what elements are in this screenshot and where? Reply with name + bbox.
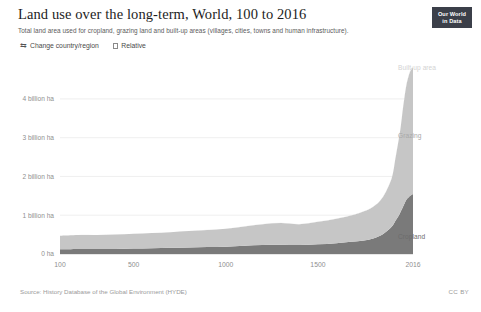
owid-logo-line-1: Our World (438, 11, 466, 18)
svg-text:2016: 2016 (405, 261, 420, 268)
series-label-builtup: Built-up area (398, 64, 436, 71)
svg-text:3 billion ha: 3 billion ha (22, 134, 54, 141)
svg-text:0 ha: 0 ha (41, 250, 54, 257)
owid-logo[interactable]: Our World in Data (432, 7, 472, 28)
owid-chart: Land use over the long-term, World, 100 … (0, 0, 481, 312)
owid-logo-line-2: in Data (442, 18, 461, 25)
area-series-group (60, 66, 413, 254)
y-axis-labels: 0 ha1 billion ha2 billion ha3 billion ha… (22, 95, 54, 257)
relative-toggle[interactable]: Relative (113, 42, 146, 49)
svg-text:4 billion ha: 4 billion ha (22, 95, 54, 102)
x-axis-labels: 100500100015002016 (54, 261, 420, 268)
series-label-grazing: Grazing (398, 132, 421, 139)
chart-footer: Source: History Database of the Global E… (0, 286, 481, 304)
area-grazing (60, 67, 413, 249)
area-built-up-area (60, 66, 413, 236)
page-title: Land use over the long-term, World, 100 … (18, 6, 418, 23)
license-text[interactable]: CC BY (449, 288, 469, 295)
swap-arrows-icon: ⇆ (20, 42, 27, 50)
relative-label: Relative (121, 42, 146, 49)
change-country-region-label: Change country/region (30, 42, 99, 49)
checkbox-icon[interactable] (113, 43, 119, 49)
source-text: Source: History Database of the Global E… (20, 288, 187, 295)
chart-header: Land use over the long-term, World, 100 … (18, 6, 418, 35)
svg-text:2 billion ha: 2 billion ha (22, 173, 54, 180)
svg-text:1 billion ha: 1 billion ha (22, 212, 54, 219)
svg-text:500: 500 (128, 261, 140, 268)
svg-text:100: 100 (54, 261, 66, 268)
svg-text:1000: 1000 (218, 261, 233, 268)
change-country-region-button[interactable]: ⇆ Change country/region (20, 42, 99, 50)
series-label-cropland: Cropland (398, 233, 425, 240)
chart-controls: ⇆ Change country/region Relative (20, 42, 146, 50)
svg-text:1500: 1500 (310, 261, 325, 268)
plot-area[interactable]: 0 ha1 billion ha2 billion ha3 billion ha… (0, 56, 481, 278)
stacked-area-chart[interactable]: 0 ha1 billion ha2 billion ha3 billion ha… (0, 56, 481, 278)
chart-subtitle: Total land area used for cropland, grazi… (18, 26, 418, 35)
